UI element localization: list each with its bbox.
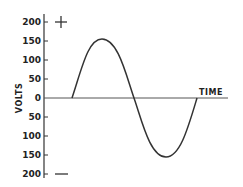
tick-label-0: 0 bbox=[35, 93, 41, 103]
tick-label-200-neg: 200 bbox=[22, 169, 41, 179]
tick-label-50-pos: 50 bbox=[28, 74, 41, 84]
plus-icon bbox=[55, 16, 67, 28]
y-axis-label: VOLTS bbox=[15, 83, 24, 113]
tick-label-150-neg: 150 bbox=[22, 150, 41, 160]
x-axis-label: TIME bbox=[199, 88, 223, 97]
tick-label-50-neg: 50 bbox=[28, 112, 41, 122]
tick-label-100-pos: 100 bbox=[22, 55, 41, 65]
tick-label-150-pos: 150 bbox=[22, 36, 41, 46]
tick-label-200-pos: 200 bbox=[22, 17, 41, 27]
sine-wave-chart: 200 150 100 50 0 50 100 150 200 VOLTS TI… bbox=[0, 0, 243, 187]
tick-label-100-neg: 100 bbox=[22, 131, 41, 141]
